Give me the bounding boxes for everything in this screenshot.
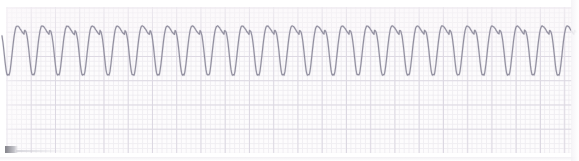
ecg-waveform-halo [2, 26, 576, 75]
scanner-smudge-tail [16, 150, 66, 152]
paper-bottom-edge [0, 157, 579, 161]
ecg-rhythm-strip [0, 0, 579, 161]
ecg-trace-layer [0, 0, 579, 161]
ecg-waveform-svg [0, 0, 579, 161]
paper-right-edge [571, 0, 579, 161]
